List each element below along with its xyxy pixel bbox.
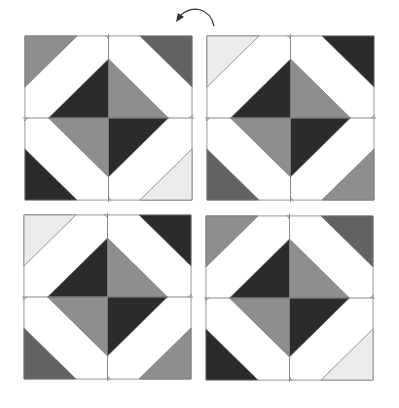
quilt-block-bottom-right [204, 214, 375, 382]
quilt-block-bottom-left [22, 213, 193, 381]
curved-arrow-counterclockwise-icon [170, 2, 220, 28]
quilt-block-top-left [23, 34, 194, 202]
quilt-block-top-right [205, 34, 376, 202]
